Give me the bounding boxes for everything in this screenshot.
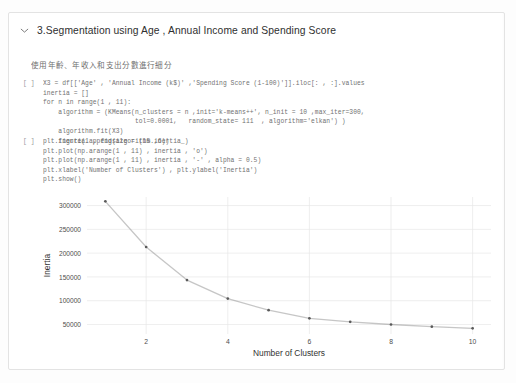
data-point-marker (267, 309, 270, 312)
data-point-marker (390, 323, 393, 326)
x-axis-label: Number of Clusters (253, 348, 325, 358)
y-tick-label: 150000 (59, 274, 81, 281)
data-point-marker (145, 246, 148, 249)
data-point-marker (308, 317, 311, 320)
y-tick-label: 50000 (63, 321, 82, 328)
section-title: 3.Segmentation using Age , Annual Income… (37, 25, 336, 36)
x-tick-label: 2 (144, 338, 148, 345)
code-cell[interactable]: [ ] plt.figure(1 , figsize = (15 ,6)) pl… (23, 137, 261, 185)
chevron-down-icon[interactable] (19, 25, 30, 36)
y-tick-label: 250000 (59, 226, 81, 233)
y-tick-label: 100000 (59, 297, 81, 304)
y-tick-label: 200000 (59, 250, 81, 257)
code-content[interactable]: plt.figure(1 , figsize = (15 ,6)) plt.pl… (43, 137, 261, 185)
data-point-marker (349, 321, 352, 324)
notebook-card: 3.Segmentation using Age , Annual Income… (8, 12, 505, 370)
x-tick-label: 6 (308, 338, 312, 345)
elbow-plot-output: 5000010000015000020000025000030000024681… (39, 189, 499, 364)
y-axis-label: Inertia (42, 254, 52, 278)
x-tick-label: 4 (226, 338, 230, 345)
cell-prompt[interactable]: [ ] (23, 79, 43, 89)
cell-prompt[interactable]: [ ] (23, 137, 43, 147)
markdown-note: 使用年齡、年收入和支出分數進行細分 (31, 59, 172, 70)
plot-area-background (87, 197, 491, 334)
section-header[interactable]: 3.Segmentation using Age , Annual Income… (19, 25, 336, 36)
card-edge-shade (502, 13, 504, 369)
notebook-page: 3.Segmentation using Age , Annual Income… (0, 0, 516, 383)
data-point-marker (226, 297, 229, 300)
x-tick-label: 10 (469, 338, 477, 345)
elbow-chart: 5000010000015000020000025000030000024681… (39, 189, 499, 364)
data-point-marker (471, 327, 474, 330)
x-tick-label: 8 (389, 338, 393, 345)
data-point-marker (186, 279, 189, 282)
y-tick-label: 300000 (59, 202, 81, 209)
data-point-marker (430, 325, 433, 328)
data-point-marker (104, 200, 107, 203)
